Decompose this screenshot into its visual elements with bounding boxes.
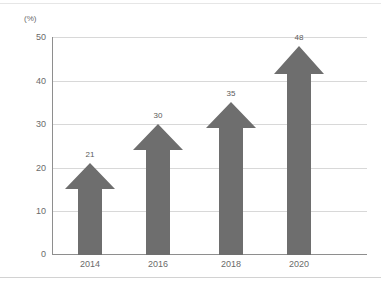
x-tick-label-2016: 2016 — [136, 259, 180, 269]
x-tick-label-2020: 2020 — [277, 259, 321, 269]
value-label-2020: 48 — [279, 33, 319, 42]
y-tick-label-50: 50 — [12, 32, 46, 42]
chart-page: (%) 50 40 30 20 10 0 21 30 35 — [0, 0, 381, 287]
bar-arrow-2018 — [201, 102, 261, 255]
y-tick-label-10: 10 — [12, 206, 46, 216]
bar-arrow-2016 — [128, 124, 188, 255]
value-label-2018: 35 — [211, 89, 251, 98]
x-tick-label-2018: 2018 — [209, 259, 253, 269]
y-tick-label-0: 0 — [12, 249, 46, 259]
bar-arrow-2014 — [60, 163, 120, 255]
x-tick-label-2014: 2014 — [68, 259, 112, 269]
value-label-2014: 21 — [70, 150, 110, 159]
y-tick-label-40: 40 — [12, 76, 46, 86]
y-axis-line — [52, 37, 53, 255]
value-label-2016: 30 — [138, 111, 178, 120]
bar-arrow-2020 — [269, 46, 329, 255]
y-tick-label-30: 30 — [12, 119, 46, 129]
chart-plot-area: (%) 50 40 30 20 10 0 21 30 35 — [0, 0, 381, 287]
y-tick-label-20: 20 — [12, 163, 46, 173]
y-axis-unit-label: (%) — [24, 14, 36, 23]
gridline-50 — [53, 37, 367, 38]
